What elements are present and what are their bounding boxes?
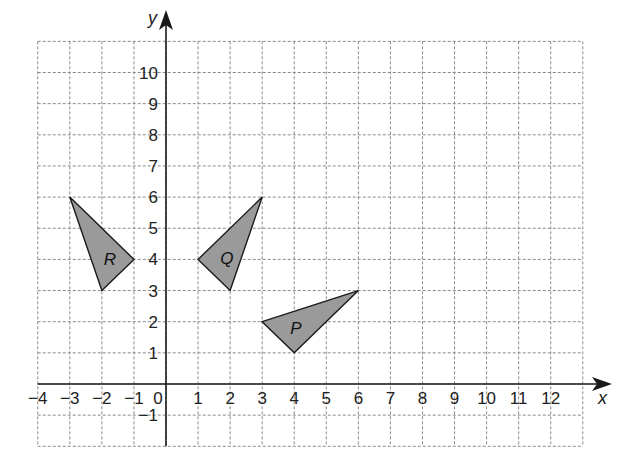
x-tick-label: 2 [225, 389, 234, 408]
x-tick-label: 5 [322, 389, 331, 408]
y-tick-label: −1 [139, 406, 158, 425]
triangle-q [198, 197, 262, 290]
y-tick-label: 3 [149, 282, 158, 301]
y-axis-label: y [146, 8, 158, 28]
y-tick-label: 7 [149, 157, 158, 176]
triangles: RQP [70, 197, 359, 353]
x-tick-label: 10 [477, 389, 496, 408]
coordinate-grid-diagram: RQP x y −4−3−2−10123456789101112−1123456… [0, 0, 629, 468]
x-tick-label: −3 [60, 389, 79, 408]
y-tick-label: 9 [149, 95, 158, 114]
triangle-r [70, 197, 134, 290]
y-tick-label: 1 [149, 344, 158, 363]
x-tick-label: 3 [257, 389, 266, 408]
y-tick-label: 6 [149, 188, 158, 207]
x-tick-label: 9 [450, 389, 459, 408]
x-tick-label: 12 [541, 389, 560, 408]
x-tick-label: 0 [153, 389, 162, 408]
axes: x y [38, 8, 612, 446]
x-tick-label: −4 [28, 389, 47, 408]
x-tick-label: −2 [92, 389, 111, 408]
x-tick-label: −1 [124, 389, 143, 408]
triangle-label-p: P [290, 319, 302, 338]
x-tick-label: 8 [418, 389, 427, 408]
x-tick-label: 1 [193, 389, 202, 408]
y-tick-label: 10 [139, 64, 158, 83]
x-tick-label: 6 [354, 389, 363, 408]
x-tick-label: 4 [290, 389, 299, 408]
x-tick-label: 7 [386, 389, 395, 408]
y-tick-label: 5 [149, 219, 158, 238]
triangle-label-q: Q [220, 249, 233, 268]
grid-lines [38, 41, 583, 446]
y-tick-label: 8 [149, 126, 158, 145]
x-tick-label: 11 [510, 389, 528, 408]
y-tick-label: 2 [149, 313, 158, 332]
x-axis-label: x [597, 388, 608, 408]
triangle-label-r: R [104, 250, 116, 269]
y-tick-label: 4 [149, 250, 158, 269]
